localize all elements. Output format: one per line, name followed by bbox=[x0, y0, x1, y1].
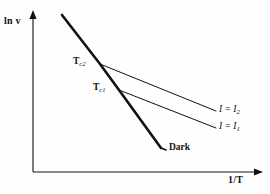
series-label-i2: I = I2 bbox=[219, 105, 240, 116]
annotation-tc1-subscript: c1 bbox=[99, 86, 105, 93]
annotation-tc2-subscript: c2 bbox=[79, 60, 85, 67]
series-label-i1: I = I1 bbox=[219, 122, 240, 133]
x-axis-arrowhead-icon bbox=[254, 168, 263, 175]
arrhenius-plot-figure: ln v 1/T Tc2 Tc1 I = I2 I = I1 Dark bbox=[0, 0, 270, 194]
series-label-i2-main: I = I bbox=[219, 104, 237, 114]
series-label-dark: Dark bbox=[169, 143, 190, 153]
series-label-i1-main: I = I bbox=[219, 121, 237, 131]
annotation-tc2: Tc2 bbox=[73, 57, 85, 67]
series-label-i1-subscript: 1 bbox=[237, 125, 241, 133]
y-axis bbox=[29, 10, 36, 172]
annotation-tc1: Tc1 bbox=[93, 83, 105, 93]
y-axis-arrowhead-icon bbox=[29, 10, 36, 19]
y-axis-label: ln v bbox=[4, 16, 21, 26]
series-label-i2-subscript: 2 bbox=[237, 108, 241, 116]
plot-canvas bbox=[0, 0, 270, 194]
x-axis-label: 1/T bbox=[228, 175, 243, 185]
dark-label-leader bbox=[161, 148, 166, 150]
series-line-dark bbox=[62, 15, 161, 148]
